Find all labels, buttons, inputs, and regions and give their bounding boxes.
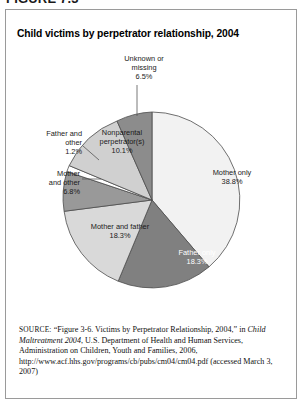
pie-label-unknown-line2: missing [109,63,179,72]
pie-label-mother-only-line1: Mother only [196,168,268,177]
pie-label-mother-other-line2: and other [8,178,80,187]
pie-label-mother-father-line1: Mother and father [72,222,168,231]
pie-label-mother-and-other: Mother and other 6.8% [8,169,80,197]
pie-chart: Unknown or missing 6.5% Father and other… [6,50,298,315]
pie-label-father-only: Father only 18.3% [161,248,233,266]
pie-label-father-only-value: 18.3% [161,257,233,266]
pie-label-nonparental-value: 10.1% [82,146,162,155]
pie-label-nonparental-line2: perpetrator(s) [82,137,162,146]
pie-label-unknown-value: 6.5% [109,72,179,81]
pie-label-nonparental: Nonparental perpetrator(s) 10.1% [82,128,162,156]
figure-title: Child victims by perpetrator relationshi… [17,28,287,39]
pie-label-unknown-or-missing: Unknown or missing 6.5% [109,54,179,82]
pie-label-father-other-value: 1.2% [12,147,82,156]
figure-number: FIGURE 7.3 [6,0,79,6]
pie-label-father-only-line1: Father only [161,248,233,257]
pie-label-mother-other-value: 6.8% [8,187,80,196]
pie-label-mother-only: Mother only 38.8% [196,168,268,186]
pie-label-father-other-line2: other [12,138,82,147]
pie-label-unknown-line1: Unknown or [109,54,179,63]
pie-label-father-other-line1: Father and [12,129,82,138]
pie-label-nonparental-line1: Nonparental [82,128,162,137]
pie-label-mother-father-value: 18.3% [72,231,168,240]
pie-label-mother-only-value: 38.8% [196,177,268,186]
source-citation: SOURCE: “Figure 3-6. Victims by Perpetra… [19,325,291,378]
figure-container: Child victims by perpetrator relationshi… [5,9,297,399]
source-text-part1: “Figure 3-6. Victims by Perpetrator Rela… [54,325,248,334]
pie-label-father-and-other: Father and other 1.2% [12,129,82,157]
pie-label-mother-other-line1: Mother [8,169,80,178]
source-label: SOURCE: [19,325,52,334]
pie-label-mother-and-father: Mother and father 18.3% [72,222,168,240]
